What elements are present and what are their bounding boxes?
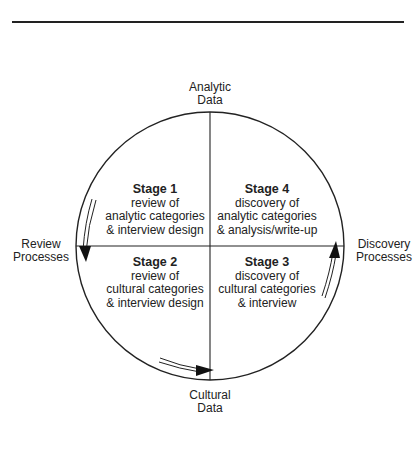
axis-label-bottom: Cultural Data	[170, 389, 250, 415]
stage-2-text: Stage 2 review of cultural categories & …	[101, 256, 209, 310]
axis-label-left: Review Processes	[6, 238, 76, 264]
cycle-diagram	[0, 0, 418, 453]
axis-label-right: Discovery Processes	[348, 238, 418, 264]
axis-label-top: Analytic Data	[170, 81, 250, 107]
stage-3-text: Stage 3 discovery of cultural categories…	[212, 256, 322, 310]
stage-4-text: Stage 4 discovery of analytic categories…	[212, 183, 322, 237]
stage-1-text: Stage 1 review of analytic categories & …	[101, 183, 209, 237]
